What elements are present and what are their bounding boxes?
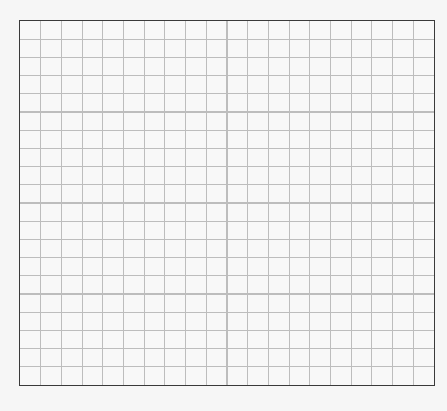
grid-horizontal-line — [20, 130, 434, 131]
grid-horizontal-line — [20, 184, 434, 185]
grid-horizontal-line — [20, 93, 434, 94]
grid-horizontal-line — [20, 293, 434, 294]
grid-horizontal-line — [20, 166, 434, 167]
grid-horizontal-line — [20, 348, 434, 349]
grid-horizontal-line — [20, 275, 434, 276]
grid-horizontal-line — [20, 57, 434, 58]
grid-horizontal-line — [20, 39, 434, 40]
grid-horizontal-line — [20, 148, 434, 149]
grid-horizontal-line — [20, 366, 434, 367]
grid-horizontal-line — [20, 75, 434, 76]
grid-horizontal-line — [20, 257, 434, 258]
grid-horizontal-line — [20, 330, 434, 331]
grid-horizontal-line — [20, 239, 434, 240]
graph-paper-grid — [19, 20, 435, 386]
grid-horizontal-line — [20, 111, 434, 112]
grid-horizontal-line — [20, 221, 434, 222]
grid-horizontal-line — [20, 312, 434, 313]
grid-horizontal-line — [20, 202, 434, 203]
